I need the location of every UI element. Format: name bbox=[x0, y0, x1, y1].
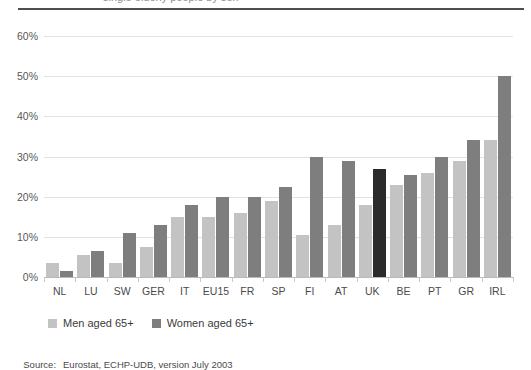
bar-women bbox=[248, 197, 261, 277]
bar-group bbox=[202, 36, 229, 277]
y-axis-tick-label: 0% bbox=[4, 271, 38, 283]
bar-men bbox=[265, 201, 278, 277]
bar-men bbox=[296, 235, 309, 277]
bar-women bbox=[498, 76, 511, 277]
y-axis-tick-label: 20% bbox=[4, 191, 38, 203]
x-axis-tick bbox=[75, 277, 76, 282]
bar-group bbox=[109, 36, 136, 277]
bar-men bbox=[171, 217, 184, 277]
bar-men bbox=[421, 173, 434, 277]
bar-women bbox=[373, 169, 386, 277]
bar-men bbox=[77, 255, 90, 277]
cropped-title-text: single elderly people by sex bbox=[103, 0, 238, 3]
bar-group bbox=[484, 36, 511, 277]
bar-men bbox=[140, 247, 153, 277]
chart-legend: Men aged 65+Women aged 65+ bbox=[48, 317, 272, 329]
bar-women bbox=[91, 251, 104, 277]
bar-men bbox=[453, 161, 466, 277]
bar-men bbox=[46, 263, 59, 277]
y-axis-tick-label: 10% bbox=[4, 231, 38, 243]
x-axis-tick bbox=[169, 277, 170, 282]
bar-women bbox=[154, 225, 167, 277]
bar-group bbox=[265, 36, 292, 277]
bar-group bbox=[421, 36, 448, 277]
x-axis-tick bbox=[388, 277, 389, 282]
legend-item-men: Men aged 65+ bbox=[48, 317, 134, 329]
bar-women bbox=[467, 140, 480, 277]
x-axis-tick bbox=[450, 277, 451, 282]
bar-women bbox=[310, 157, 323, 278]
bar-group bbox=[77, 36, 104, 277]
bar-group bbox=[171, 36, 198, 277]
x-axis-tick bbox=[325, 277, 326, 282]
source-text: Eurostat, ECHP-UDB, version July 2003 bbox=[63, 359, 232, 370]
bar-group bbox=[140, 36, 167, 277]
bar-men bbox=[202, 217, 215, 277]
source-label: Source: bbox=[23, 359, 56, 370]
bar-group bbox=[234, 36, 261, 277]
y-axis-tick-label: 40% bbox=[4, 110, 38, 122]
legend-swatch-icon bbox=[152, 319, 161, 328]
bar-group bbox=[390, 36, 417, 277]
bar-group bbox=[453, 36, 480, 277]
bar-group bbox=[359, 36, 386, 277]
x-axis-tick bbox=[419, 277, 420, 282]
bar-men bbox=[484, 140, 497, 277]
x-axis-tick bbox=[482, 277, 483, 282]
x-axis-tick bbox=[44, 277, 45, 282]
chart-plot-area bbox=[44, 36, 513, 277]
bar-women bbox=[342, 161, 355, 277]
cropped-title-sliver: single elderly people by sex bbox=[0, 0, 531, 5]
x-axis-tick bbox=[357, 277, 358, 282]
bar-men bbox=[359, 205, 372, 277]
x-axis-tick bbox=[107, 277, 108, 282]
legend-item-women: Women aged 65+ bbox=[152, 317, 254, 329]
x-axis-tick bbox=[294, 277, 295, 282]
bar-women bbox=[216, 197, 229, 277]
bar-men bbox=[234, 213, 247, 277]
y-axis-tick-label: 60% bbox=[4, 30, 38, 42]
x-axis-label-irl: IRL bbox=[475, 285, 519, 297]
legend-label: Men aged 65+ bbox=[63, 317, 134, 329]
bar-group bbox=[296, 36, 323, 277]
x-axis-tick bbox=[263, 277, 264, 282]
bar-women bbox=[279, 187, 292, 277]
y-axis-tick-label: 30% bbox=[4, 151, 38, 163]
bar-men bbox=[390, 185, 403, 277]
x-axis-tick bbox=[232, 277, 233, 282]
x-axis-tick bbox=[200, 277, 201, 282]
bar-women bbox=[435, 157, 448, 278]
bar-group bbox=[46, 36, 73, 277]
x-axis-baseline bbox=[44, 277, 513, 278]
source-note: Source:Eurostat, ECHP-UDB, version July … bbox=[18, 348, 233, 370]
bar-women bbox=[185, 205, 198, 277]
bar-men bbox=[109, 263, 122, 277]
bar-group bbox=[328, 36, 355, 277]
legend-label: Women aged 65+ bbox=[167, 317, 254, 329]
x-axis-tick bbox=[513, 277, 514, 282]
header-divider bbox=[18, 8, 524, 10]
bar-men bbox=[328, 225, 341, 277]
x-axis-tick bbox=[138, 277, 139, 282]
bar-women bbox=[123, 233, 136, 277]
bar-women bbox=[404, 175, 417, 277]
y-axis-tick-label: 50% bbox=[4, 70, 38, 82]
legend-swatch-icon bbox=[48, 319, 57, 328]
